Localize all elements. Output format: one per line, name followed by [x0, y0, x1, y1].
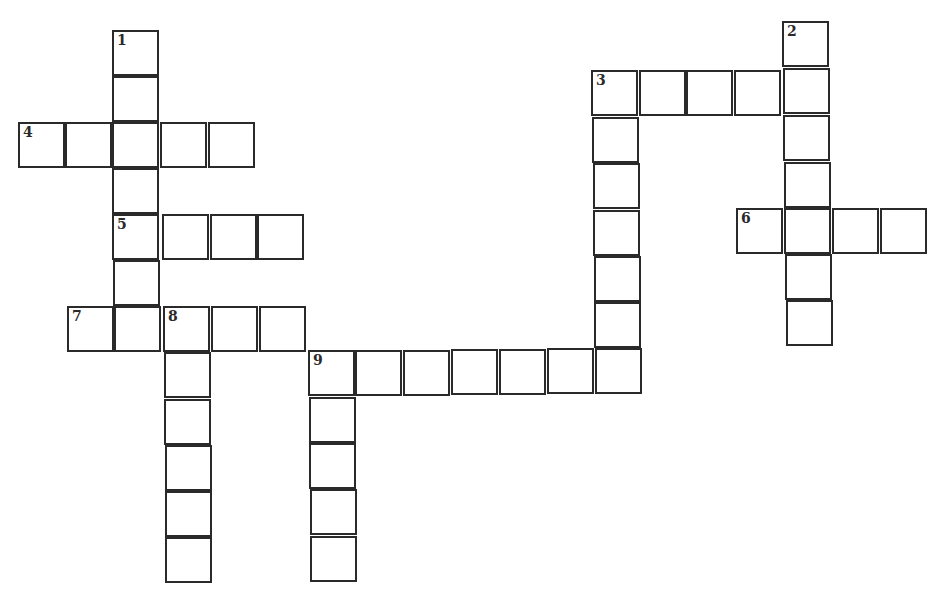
cell-letter-input[interactable]: [501, 351, 544, 393]
cell-letter-input[interactable]: [595, 165, 638, 207]
cell-letter-input[interactable]: [311, 399, 354, 441]
cell-letter-input[interactable]: [596, 258, 639, 300]
crossword-cell[interactable]: [113, 260, 160, 306]
crossword-cell[interactable]: 3: [591, 70, 638, 116]
crossword-cell[interactable]: [832, 208, 879, 254]
crossword-cell[interactable]: [164, 399, 211, 445]
crossword-cell[interactable]: [257, 214, 304, 260]
crossword-cell[interactable]: [593, 163, 640, 209]
crossword-cell[interactable]: [208, 122, 255, 168]
cell-letter-input[interactable]: [785, 70, 828, 112]
crossword-cell[interactable]: [786, 300, 833, 346]
clue-number-5: 5: [117, 217, 127, 231]
crossword-cell[interactable]: [594, 256, 641, 302]
crossword-cell[interactable]: 2: [782, 21, 829, 67]
crossword-cell[interactable]: 5: [112, 214, 159, 260]
crossword-cell[interactable]: [165, 445, 212, 491]
crossword-cell[interactable]: 4: [18, 122, 65, 168]
crossword-cell[interactable]: [114, 306, 161, 352]
cell-letter-input[interactable]: [114, 78, 157, 120]
cell-letter-input[interactable]: [167, 447, 210, 489]
crossword-cell[interactable]: [880, 208, 927, 254]
cell-letter-input[interactable]: [453, 351, 496, 393]
crossword-cell[interactable]: [355, 350, 402, 396]
crossword-cell[interactable]: [403, 350, 450, 396]
cell-letter-input[interactable]: [688, 72, 731, 114]
cell-letter-input[interactable]: [357, 352, 400, 394]
crossword-cell[interactable]: [210, 214, 257, 260]
crossword-cell[interactable]: [211, 306, 258, 352]
crossword-cell[interactable]: [785, 254, 832, 300]
crossword-cell[interactable]: [499, 349, 546, 395]
crossword-cell[interactable]: [784, 208, 831, 254]
cell-letter-input[interactable]: [597, 350, 640, 392]
cell-letter-input[interactable]: [67, 124, 110, 166]
crossword-cell[interactable]: [593, 210, 640, 256]
crossword-cell[interactable]: [165, 491, 212, 537]
crossword-cell[interactable]: [547, 348, 594, 394]
cell-letter-input[interactable]: [167, 539, 210, 581]
cell-letter-input[interactable]: [834, 210, 877, 252]
cell-letter-input[interactable]: [788, 302, 831, 344]
cell-letter-input[interactable]: [166, 354, 209, 396]
cell-letter-input[interactable]: [596, 304, 639, 346]
crossword-cell[interactable]: [451, 349, 498, 395]
crossword-cell[interactable]: [309, 397, 356, 443]
cell-letter-input[interactable]: [736, 72, 779, 114]
cell-letter-input[interactable]: [212, 216, 255, 258]
crossword-cell[interactable]: [162, 214, 209, 260]
cell-letter-input[interactable]: [114, 170, 157, 212]
cell-letter-input[interactable]: [787, 256, 830, 298]
crossword-cell[interactable]: [784, 162, 831, 208]
crossword-cell[interactable]: [160, 122, 207, 168]
crossword-cell[interactable]: [783, 115, 830, 161]
crossword-cell[interactable]: 7: [67, 306, 114, 352]
crossword-cell[interactable]: [310, 536, 357, 582]
crossword-cell[interactable]: [783, 68, 830, 114]
cell-letter-input[interactable]: [116, 308, 159, 350]
crossword-cell[interactable]: [165, 537, 212, 583]
cell-letter-input[interactable]: [164, 216, 207, 258]
cell-letter-input[interactable]: [261, 308, 304, 350]
cell-letter-input[interactable]: [785, 117, 828, 159]
crossword-cell[interactable]: [112, 76, 159, 122]
cell-letter-input[interactable]: [162, 124, 205, 166]
cell-letter-input[interactable]: [213, 308, 256, 350]
cell-letter-input[interactable]: [210, 124, 253, 166]
crossword-cell[interactable]: [594, 302, 641, 348]
cell-letter-input[interactable]: [594, 119, 637, 161]
clue-number-3: 3: [596, 73, 606, 87]
crossword-cell[interactable]: [112, 122, 159, 168]
crossword-cell[interactable]: [734, 70, 781, 116]
cell-letter-input[interactable]: [312, 491, 355, 533]
cell-letter-input[interactable]: [786, 210, 829, 252]
crossword-cell[interactable]: [164, 352, 211, 398]
crossword-cell[interactable]: 6: [736, 208, 783, 254]
cell-letter-input[interactable]: [311, 445, 354, 487]
crossword-cell[interactable]: 8: [163, 306, 210, 352]
cell-letter-input[interactable]: [882, 210, 925, 252]
cell-letter-input[interactable]: [641, 72, 684, 114]
crossword-cell[interactable]: [686, 70, 733, 116]
cell-letter-input[interactable]: [259, 216, 302, 258]
cell-letter-input[interactable]: [786, 164, 829, 206]
cell-letter-input[interactable]: [549, 350, 592, 392]
clue-number-2: 2: [787, 24, 797, 38]
crossword-cell[interactable]: [112, 168, 159, 214]
crossword-cell[interactable]: [309, 443, 356, 489]
crossword-cell[interactable]: 1: [112, 30, 159, 76]
cell-letter-input[interactable]: [114, 124, 157, 166]
cell-letter-input[interactable]: [166, 401, 209, 443]
cell-letter-input[interactable]: [405, 352, 448, 394]
cell-letter-input[interactable]: [167, 493, 210, 535]
crossword-cell[interactable]: [639, 70, 686, 116]
crossword-cell[interactable]: [595, 348, 642, 394]
cell-letter-input[interactable]: [115, 262, 158, 304]
crossword-cell[interactable]: [259, 306, 306, 352]
crossword-cell[interactable]: [592, 117, 639, 163]
cell-letter-input[interactable]: [312, 538, 355, 580]
crossword-cell[interactable]: [310, 489, 357, 535]
crossword-cell[interactable]: 9: [308, 350, 355, 396]
crossword-cell[interactable]: [65, 122, 112, 168]
cell-letter-input[interactable]: [595, 212, 638, 254]
